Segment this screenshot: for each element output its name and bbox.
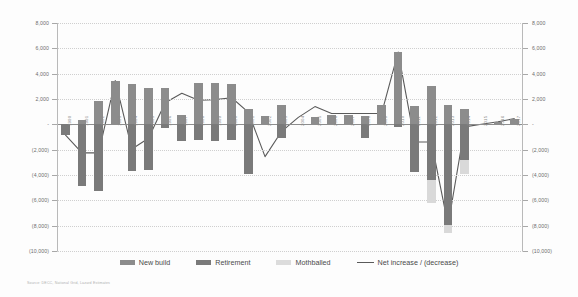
x-axis-year-label: 2005 xyxy=(317,116,322,126)
y-axis-label-left: (6,000) xyxy=(5,197,49,203)
x-axis-year-label: 1993 xyxy=(117,116,122,126)
y-axis-label-left: 2,000 xyxy=(5,96,49,102)
axis-tick xyxy=(523,99,528,100)
x-axis-year-label: 2006 xyxy=(333,116,338,126)
bar-column xyxy=(161,23,170,251)
bar-column xyxy=(377,23,386,251)
plot-area: 8,0008,0006,0006,0004,0004,0002,0002,000… xyxy=(57,23,523,251)
y-axis-label-left: (4,000) xyxy=(5,172,49,178)
legend-label-retirement: Retirement xyxy=(215,258,250,267)
legend-label-net-increase: Net increase / (decrease) xyxy=(378,258,459,267)
x-axis-year-label: 2002 xyxy=(267,116,272,126)
x-axis-year-label: 1990 xyxy=(67,116,72,126)
bar-column xyxy=(261,23,270,251)
y-axis-label-right: 2,000 xyxy=(532,96,576,102)
right-axis xyxy=(522,23,523,251)
bar-column xyxy=(94,23,103,251)
x-axis-year-label: 1999 xyxy=(217,116,222,126)
bar-mothballed xyxy=(444,225,453,233)
retirement-swatch xyxy=(196,260,211,265)
legend-label-new-build: New build xyxy=(139,258,171,267)
x-axis-year-label: 2007 xyxy=(350,116,355,126)
x-axis-year-label: 2008 xyxy=(366,116,371,126)
x-axis-year-label: 2015 xyxy=(483,116,488,126)
bar-column xyxy=(294,23,303,251)
x-axis-year-label: 2009 xyxy=(383,116,388,126)
bar-column xyxy=(128,23,137,251)
bar-column xyxy=(144,23,153,251)
bar-column xyxy=(444,23,453,251)
axis-tick xyxy=(523,74,528,75)
y-axis-label-left: (2,000) xyxy=(5,147,49,153)
bar-column xyxy=(211,23,220,251)
y-axis-label-right: 8,000 xyxy=(532,20,576,26)
axis-tick xyxy=(523,226,528,227)
bar-new-build xyxy=(394,52,403,124)
x-axis-year-label: 2012 xyxy=(433,116,438,126)
x-axis-year-label: 2010 xyxy=(400,116,405,126)
bar-retirement xyxy=(410,124,419,172)
bar-column xyxy=(361,23,370,251)
bar-column xyxy=(494,23,503,251)
mothballed-swatch xyxy=(276,260,291,265)
bar-retirement xyxy=(460,124,469,159)
bar-column xyxy=(344,23,353,251)
gridline xyxy=(57,251,523,252)
x-axis-year-label: 1994 xyxy=(133,116,138,126)
bar-column xyxy=(244,23,253,251)
legend-item-retirement: Retirement xyxy=(196,258,250,267)
bar-column xyxy=(410,23,419,251)
legend-item-net-increase: Net increase / (decrease) xyxy=(357,258,459,267)
y-axis-label-left: 4,000 xyxy=(5,71,49,77)
y-axis-label-right: - xyxy=(532,121,576,127)
y-axis-label-left: - xyxy=(5,121,49,127)
y-axis-label-right: (4,000) xyxy=(532,172,576,178)
bar-column xyxy=(78,23,87,251)
bar-retirement xyxy=(277,124,286,138)
y-axis-label-right: 6,000 xyxy=(532,45,576,51)
net-increase-line-swatch xyxy=(357,262,374,263)
bar-column xyxy=(111,23,120,251)
axis-tick xyxy=(523,48,528,49)
x-axis-year-label: 1995 xyxy=(150,116,155,126)
bar-retirement xyxy=(227,124,236,139)
bar-retirement xyxy=(128,124,137,171)
y-axis-label-left: (8,000) xyxy=(5,223,49,229)
x-axis-year-label: 1996 xyxy=(167,116,172,126)
bar-mothballed xyxy=(427,180,436,203)
y-axis-label-right: (2,000) xyxy=(532,147,576,153)
bar-retirement xyxy=(244,124,253,173)
legend-item-new-build: New build xyxy=(120,258,171,267)
x-axis-year-label: 1991 xyxy=(84,116,89,126)
x-axis-year-label: 1998 xyxy=(200,116,205,126)
bar-column xyxy=(510,23,519,251)
axis-tick xyxy=(523,251,528,252)
bar-retirement xyxy=(361,124,370,138)
axis-tick xyxy=(523,23,528,24)
bar-column xyxy=(311,23,320,251)
bar-column xyxy=(227,23,236,251)
x-axis-year-label: 2004 xyxy=(300,116,305,126)
x-axis-year-label: 2014 xyxy=(466,116,471,126)
chart-container: 8,0008,0006,0006,0004,0004,0002,0002,000… xyxy=(0,0,578,297)
axis-tick xyxy=(52,251,57,252)
axis-tick xyxy=(523,175,528,176)
bar-retirement xyxy=(444,124,453,225)
x-axis-year-label: 2001 xyxy=(250,116,255,126)
bar-column xyxy=(277,23,286,251)
bar-retirement xyxy=(94,124,103,191)
new-build-swatch xyxy=(120,260,135,265)
bar-column xyxy=(194,23,203,251)
bar-column xyxy=(427,23,436,251)
axis-tick xyxy=(523,150,528,151)
bar-retirement xyxy=(211,124,220,140)
y-axis-label-right: 4,000 xyxy=(532,71,576,77)
y-axis-label-left: 8,000 xyxy=(5,20,49,26)
x-axis-year-label: 2013 xyxy=(450,116,455,126)
x-axis-year-label: 1992 xyxy=(100,116,105,126)
axis-tick xyxy=(523,124,528,125)
bar-column xyxy=(460,23,469,251)
bar-column xyxy=(61,23,70,251)
bar-column xyxy=(327,23,336,251)
y-axis-label-right: (6,000) xyxy=(532,197,576,203)
